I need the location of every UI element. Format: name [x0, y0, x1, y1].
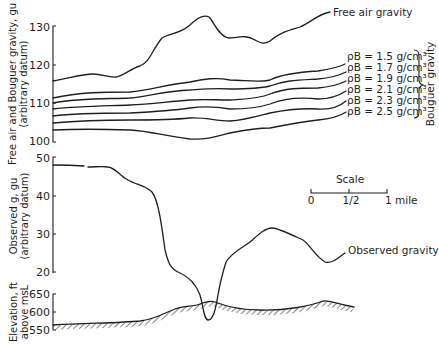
- tick-30: 30: [36, 228, 50, 241]
- tick-650: 650: [29, 288, 50, 301]
- bouguer-label-2-5: ρB = 2.5 g/cm³: [347, 105, 427, 117]
- tick-120: 120: [29, 59, 50, 72]
- tick-550: 550: [29, 324, 50, 337]
- tick-40: 40: [36, 190, 50, 203]
- svg-text:above msL: above msL: [19, 284, 30, 339]
- observed-gravity-curve: [53, 165, 345, 320]
- tick-600: 600: [29, 306, 50, 319]
- scale-title: Scale: [336, 173, 364, 185]
- gravity-profile-figure: 130 120 110 100 Free air and Bouguer gra…: [0, 0, 439, 345]
- middle-y-label: Observed g, gu (arbitrary datum): [8, 172, 30, 259]
- tick-130: 130: [29, 21, 50, 34]
- scale-tick-0: 0: [308, 194, 315, 206]
- scale-bar: Scale 0 1/2 1 mile: [308, 173, 418, 206]
- bouguer-curve-1-9: [53, 81, 346, 109]
- top-y-axis: [53, 26, 56, 142]
- free-air-gravity-label: Free air gravity: [333, 6, 413, 18]
- svg-text:Free air and Bouguer gravity,: Free air and Bouguer gravity, gu: [7, 3, 18, 165]
- bouguer-group-label: Bouguer gravity: [424, 42, 436, 127]
- bouguer-curve-1-5: [53, 64, 345, 98]
- tick-50: 50: [36, 152, 50, 165]
- top-y-label: Free air and Bouguer gravity, gu (arbitr…: [7, 3, 29, 165]
- free-air-gravity-curve: [53, 12, 330, 81]
- bouguer-curve-2-1: [53, 91, 346, 116]
- scale-line: [311, 189, 387, 193]
- middle-y-axis: [53, 157, 56, 273]
- middle-panel: 50 40 30 20 Observed g, gu (arbitrary da…: [8, 152, 439, 320]
- observed-gravity-label: Observed gravity: [348, 244, 439, 256]
- bottom-y-label: Elevation, ft above msL: [8, 282, 30, 342]
- top-panel: 130 120 110 100 Free air and Bouguer gra…: [7, 3, 436, 165]
- svg-text:(arbitrary datum): (arbitrary datum): [19, 172, 30, 259]
- bottom-panel: 650 600 550 Elevation, ft above msL: [8, 282, 354, 342]
- bouguer-curve-2-3: [53, 101, 346, 123]
- bouguer-curve-2-5: [53, 112, 346, 139]
- svg-text:Observed g, gu: Observed g, gu: [8, 178, 19, 255]
- scale-tick-mile: 1 mile: [385, 194, 418, 206]
- tick-110: 110: [29, 97, 50, 110]
- tick-100: 100: [29, 135, 50, 148]
- tick-20: 20: [36, 266, 50, 279]
- svg-text:(arbitrary datum): (arbitrary datum): [18, 40, 29, 127]
- svg-text:Elevation, ft: Elevation, ft: [8, 282, 19, 342]
- scale-tick-half: 1/2: [343, 194, 360, 206]
